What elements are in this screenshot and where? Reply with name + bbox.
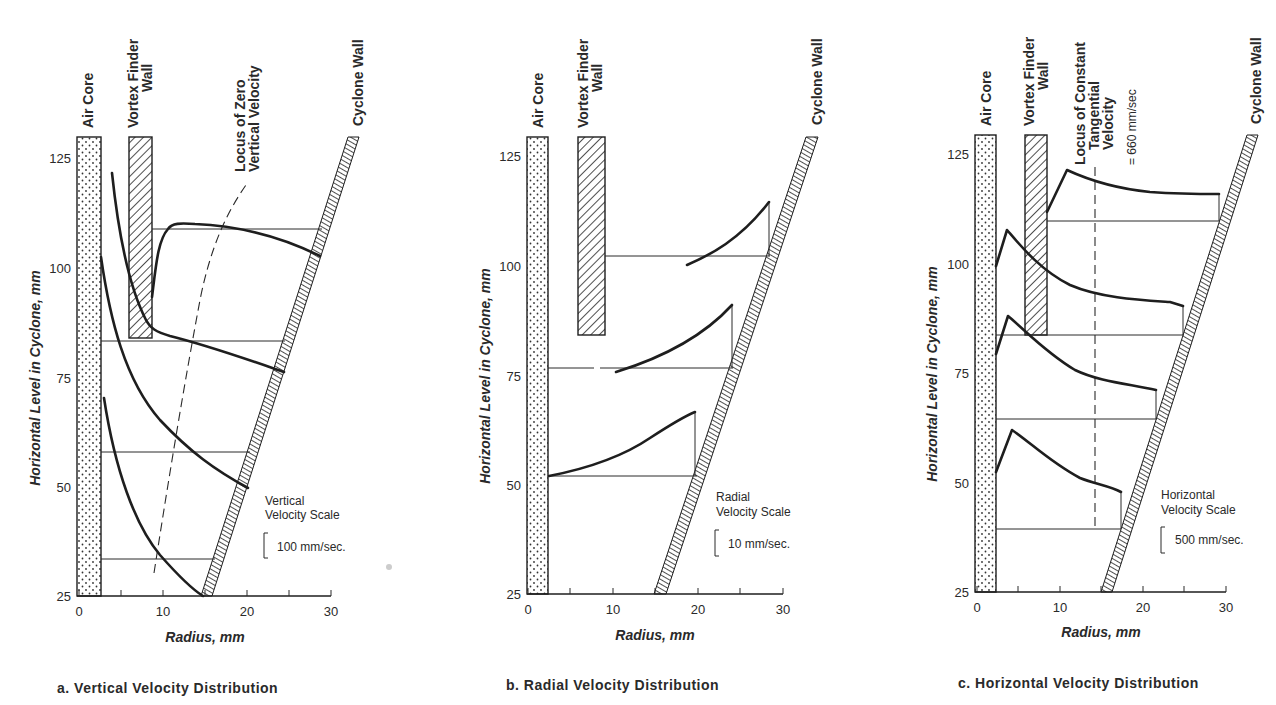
y-tick-label: 125 xyxy=(499,149,521,164)
y-tick-label: 100 xyxy=(499,259,521,274)
panel-caption: b. Radial Velocity Distribution xyxy=(506,677,719,693)
scale-bar xyxy=(1161,527,1165,553)
y-tick-label: 25 xyxy=(57,589,71,604)
velocity-curve xyxy=(152,224,320,297)
cyclone-wall-label: Cyclone Wall xyxy=(350,39,366,126)
y-axis-title: Horizontal Level in Cyclone, mm xyxy=(924,266,940,482)
y-tick-label: 100 xyxy=(49,261,71,276)
vortex-finder-label-wall: Wall xyxy=(589,64,605,92)
scale-title: Velocity Scale xyxy=(1161,503,1236,517)
y-tick-label: 100 xyxy=(947,257,969,272)
scale-title: Radial xyxy=(716,490,750,504)
velocity-curve xyxy=(996,316,1156,390)
cyclone-wall-label: Cyclone Wall xyxy=(809,38,825,125)
scale-title: Vertical xyxy=(265,494,304,508)
y-tick-label: 50 xyxy=(507,478,521,493)
locus-value-label: = 660 mm/sec xyxy=(1125,89,1139,165)
figure-canvas: 0 10 20 30 125 100 75 50 25 Radius, mm H… xyxy=(0,0,1276,705)
x-axis-title: Radius, mm xyxy=(615,627,694,643)
air-core-region xyxy=(975,135,996,592)
locus-label: Vertical Velocity xyxy=(246,65,262,172)
panel-c: 0 10 20 30 125 100 75 50 25 Radius, mm H… xyxy=(924,36,1264,691)
scale-title: Velocity Scale xyxy=(716,505,791,519)
velocity-curve xyxy=(1047,170,1219,212)
cyclone-wall xyxy=(654,137,818,594)
x-axis-title: Radius, mm xyxy=(165,629,244,645)
y-axis-title: Horizontal Level in Cyclone, mm xyxy=(27,270,43,486)
x-tick-label: 30 xyxy=(1219,600,1233,615)
locus-label: Velocity xyxy=(1100,97,1116,150)
scale-bar xyxy=(264,533,268,558)
panel-a: 0 10 20 30 125 100 75 50 25 Radius, mm H… xyxy=(27,38,392,696)
velocity-curve xyxy=(616,305,732,372)
x-tick-label: 30 xyxy=(324,604,338,619)
y-tick-label: 125 xyxy=(49,151,71,166)
x-tick-label: 10 xyxy=(1053,600,1067,615)
x-tick-label: 0 xyxy=(75,604,82,619)
cyclone-wall xyxy=(201,137,359,596)
vortex-finder-wall xyxy=(578,137,605,335)
velocity-curve xyxy=(549,412,695,476)
air-core-label: Air Core xyxy=(978,71,994,126)
air-core-label: Air Core xyxy=(80,73,96,128)
air-core-label: Air Core xyxy=(530,73,546,128)
x-tick-label: 20 xyxy=(691,602,705,617)
scale-title: Horizontal xyxy=(1161,488,1215,502)
x-tick-label: 10 xyxy=(606,602,620,617)
x-axis-title: Radius, mm xyxy=(1061,624,1140,640)
velocity-curve xyxy=(104,398,203,596)
vortex-finder-wall xyxy=(1025,135,1047,335)
scale-title: Velocity Scale xyxy=(265,508,340,522)
vortex-finder-label-wall: Wall xyxy=(1035,62,1051,90)
velocity-curve xyxy=(996,430,1121,492)
scale-value: 100 mm/sec. xyxy=(277,540,346,554)
y-axis-title: Horizontal Level in Cyclone, mm xyxy=(477,268,493,484)
y-tick-label: 75 xyxy=(955,366,969,381)
y-tick-label: 75 xyxy=(57,371,71,386)
x-tick-label: 20 xyxy=(240,604,254,619)
stray-mark xyxy=(386,564,392,570)
air-core-region xyxy=(527,137,548,594)
scale-value: 500 mm/sec. xyxy=(1175,533,1244,547)
y-tick-label: 25 xyxy=(507,587,521,602)
x-tick-label: 30 xyxy=(776,602,790,617)
panel-b: 0 10 20 30 125 100 75 50 25 Radius, mm H… xyxy=(477,38,825,693)
y-tick-label: 50 xyxy=(57,480,71,495)
scale-value: 10 mm/sec. xyxy=(728,537,790,551)
panel-caption: a. Vertical Velocity Distribution xyxy=(57,680,278,696)
velocity-curve xyxy=(996,230,1183,306)
x-tick-label: 20 xyxy=(1136,600,1150,615)
cyclone-wall xyxy=(1101,135,1258,592)
air-core-region xyxy=(77,137,101,596)
y-tick-label: 25 xyxy=(955,585,969,600)
cyclone-wall-label: Cyclone Wall xyxy=(1248,37,1264,124)
panel-caption: c. Horizontal Velocity Distribution xyxy=(958,675,1199,691)
x-tick-label: 0 xyxy=(524,602,531,617)
y-tick-label: 125 xyxy=(947,147,969,162)
x-tick-label: 10 xyxy=(156,604,170,619)
velocity-curve xyxy=(101,257,248,488)
scale-bar xyxy=(715,530,719,556)
y-tick-label: 50 xyxy=(955,476,969,491)
y-tick-label: 75 xyxy=(507,369,521,384)
vortex-finder-label-wall: Wall xyxy=(139,64,155,92)
x-tick-label: 0 xyxy=(973,600,980,615)
